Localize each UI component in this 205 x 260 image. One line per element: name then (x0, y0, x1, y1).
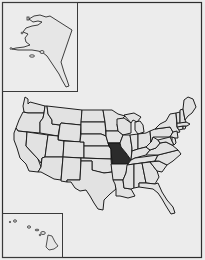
state-wyoming (58, 123, 81, 142)
hawaii-island-lanai (39, 234, 41, 236)
us-map-svg (0, 0, 205, 260)
state-north-dakota (81, 110, 105, 122)
state-colorado (63, 141, 84, 158)
state-arizona (38, 157, 63, 180)
mainland-us (14, 97, 196, 214)
hawaii-inset (3, 214, 63, 258)
us-map-figure (0, 0, 205, 260)
hawaii-island-maui (41, 232, 46, 235)
state-florida (139, 183, 175, 214)
alaska-island (40, 51, 44, 54)
alaska-island (21, 32, 23, 34)
hawaii-island-molokai (35, 229, 39, 231)
state-maine (183, 97, 196, 120)
alaska-inset (3, 3, 78, 92)
alaska-island (10, 48, 12, 50)
state-nebraska (80, 134, 109, 146)
hawaii-island-kauai (14, 220, 17, 222)
state-kansas (84, 146, 111, 159)
alaska-island (30, 55, 35, 57)
hawaii-island-oahu (27, 226, 30, 228)
hawaii-island-big-island (46, 235, 58, 250)
hawaii-island-niihau (9, 221, 10, 222)
state-new-mexico (61, 157, 81, 182)
alaska-island (27, 17, 29, 20)
state-washington (23, 97, 45, 113)
state-montana (47, 106, 82, 125)
state-vermont (176, 112, 180, 123)
hawaii-inset-box (3, 214, 63, 258)
